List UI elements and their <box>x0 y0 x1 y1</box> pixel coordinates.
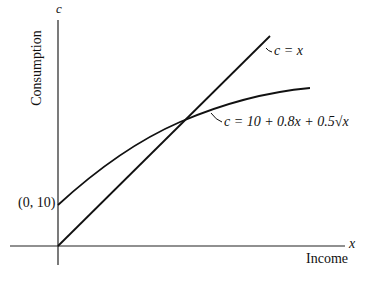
line-label-pointer <box>266 48 272 52</box>
line-label: c = x <box>274 43 303 59</box>
curve-label-pointer <box>211 113 222 122</box>
chart-canvas <box>0 0 372 281</box>
line-c-equals-x <box>58 36 270 246</box>
x-axis-title: Income <box>306 251 348 267</box>
x-axis-symbol: x <box>349 236 355 252</box>
consumption-curve <box>58 88 310 205</box>
y-axis-symbol: c <box>56 1 62 17</box>
y-axis-title: Consumption <box>29 23 45 113</box>
intercept-label: (0, 10) <box>18 195 55 211</box>
curve-label: c = 10 + 0.8x + 0.5√x <box>224 114 349 130</box>
